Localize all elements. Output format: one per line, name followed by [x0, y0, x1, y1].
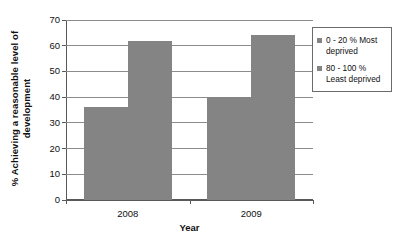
y-axis-tick — [62, 97, 66, 98]
x-axis-title: Year — [66, 222, 313, 233]
y-axis-title: % Achieving a reasonable level of develo… — [9, 4, 32, 214]
legend-swatch-icon — [317, 66, 322, 71]
bar — [251, 35, 295, 200]
chart-legend: 0 - 20 % Most deprived 80 - 100 % Least … — [312, 27, 392, 92]
y-axis-tick-label: 60 — [49, 41, 60, 51]
legend-item-most-deprived: 0 - 20 % Most deprived — [317, 35, 387, 56]
y-axis-tick-label: 10 — [49, 170, 60, 180]
y-axis-tick-label: 0 — [55, 195, 60, 205]
y-axis-tick-label: 70 — [49, 15, 60, 25]
x-axis-tick — [313, 200, 314, 204]
x-axis-tick-label: 2009 — [241, 209, 262, 219]
bar-chart: % Achieving a reasonable level of develo… — [0, 0, 397, 246]
legend-item-least-deprived: 80 - 100 % Least deprived — [317, 63, 387, 84]
y-axis-tick-label: 50 — [49, 67, 60, 77]
y-axis-tick — [62, 122, 66, 123]
bar — [84, 107, 128, 200]
y-axis-tick — [62, 45, 66, 46]
legend-swatch-icon — [317, 38, 322, 43]
y-axis-tick-label: 20 — [49, 144, 60, 154]
x-axis-tick-label: 2008 — [117, 209, 138, 219]
legend-item-label: 0 - 20 % Most deprived — [326, 35, 387, 56]
y-axis-tick — [62, 20, 66, 21]
y-axis-tick-label: 30 — [49, 118, 60, 128]
y-axis-tick-label: 40 — [49, 92, 60, 102]
legend-item-label: 80 - 100 % Least deprived — [326, 63, 387, 84]
bar — [128, 41, 172, 200]
x-axis-tick — [66, 200, 67, 204]
y-axis-tick — [62, 71, 66, 72]
plot-area: 70605040302010020082009 — [66, 20, 313, 200]
y-axis-tick — [62, 174, 66, 175]
bar — [207, 97, 251, 200]
y-axis-tick — [62, 148, 66, 149]
y-gridline — [66, 20, 313, 21]
x-axis-tick — [190, 200, 191, 204]
